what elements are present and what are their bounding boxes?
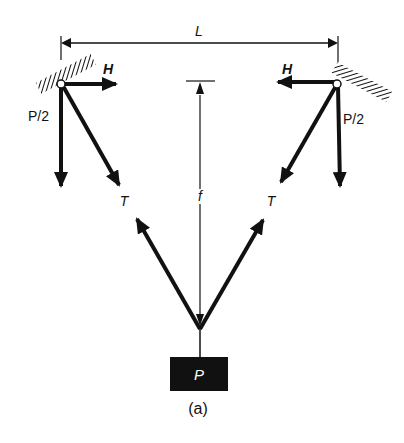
right-pin-icon <box>333 80 341 88</box>
right-p2-label: P/2 <box>343 111 364 127</box>
right-forces <box>278 80 341 186</box>
right-h-label: H <box>282 61 293 77</box>
figure-caption: (a) <box>188 400 208 417</box>
right-t-label: T <box>267 193 277 209</box>
load-label: P <box>194 366 204 383</box>
cable-force-diagram: L H P/2 H P/2 f T T P <box>0 0 404 443</box>
left-t-label: T <box>120 193 130 209</box>
span-dimension <box>61 36 338 62</box>
span-label: L <box>195 23 203 39</box>
left-h-label: H <box>103 61 114 77</box>
sag-label: f <box>198 188 204 204</box>
left-forces <box>57 80 119 186</box>
left-pin-icon <box>57 80 65 88</box>
left-p2-label: P/2 <box>28 108 49 124</box>
